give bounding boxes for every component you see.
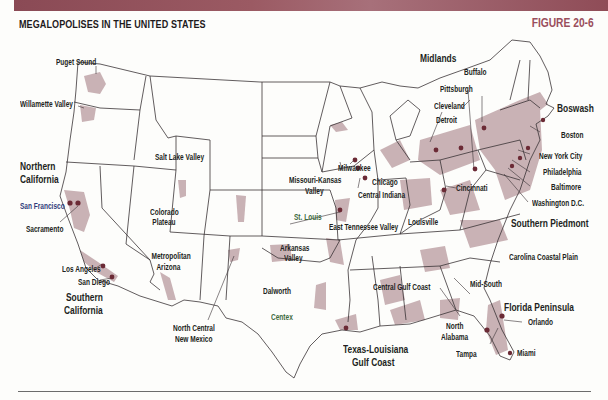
label-louisville: Louisville (408, 218, 438, 228)
label-north-central-nm-2: New Mexico (175, 335, 212, 345)
label-arkansas-valley-2: Valley (284, 254, 303, 264)
region-midlands: Midlands (420, 52, 456, 64)
label-carolina-coastal-plain: Carolina Coastal Plain (509, 253, 578, 263)
label-san-francisco: San Francisco (20, 202, 65, 212)
label-puget-sound: Puget Sound (56, 58, 96, 68)
label-cleveland: Cleveland (434, 102, 465, 112)
region-northern-california-2: California (20, 173, 59, 185)
region-southern-california-1: Southern (66, 291, 103, 303)
label-orlando: Orlando (528, 318, 553, 328)
bottom-rule (18, 391, 591, 392)
label-sacramento: Sacramento (26, 225, 63, 235)
label-san-diego: San Diego (78, 278, 110, 288)
region-southern-california-2: California (64, 304, 103, 316)
label-baltimore: Baltimore (551, 183, 581, 193)
region-southern-piedmont: Southern Piedmont (511, 217, 588, 229)
region-boswash: Boswash (557, 102, 594, 114)
label-milwaukee: Milwaukee (338, 164, 371, 174)
label-chicago: Chicago (372, 178, 398, 188)
label-dalworth: Dalworth (263, 287, 291, 297)
label-new-york-city: New York City (539, 152, 582, 162)
region-tx-la-gulf-2: Gulf Coast (352, 356, 394, 368)
label-los-angeles: Los Angeles (62, 265, 101, 275)
label-pittsburgh: Pittsburgh (440, 85, 473, 95)
label-missouri-kansas-2: Valley (305, 187, 324, 197)
label-north-alabama-2: Alabama (441, 333, 468, 343)
label-willamette-valley: Willamette Valley (20, 100, 73, 110)
label-missouri-kansas-1: Missouri-Kansas (289, 176, 341, 186)
label-detroit: Detroit (436, 116, 457, 126)
region-florida-peninsula: Florida Peninsula (504, 301, 574, 313)
label-salt-lake-valley: Salt Lake Valley (155, 153, 204, 163)
region-tx-la-gulf-1: Texas-Louisiana (343, 343, 408, 355)
label-boston: Boston (561, 131, 583, 141)
label-metropolitan-arizona-1: Metropolitan (152, 252, 191, 262)
label-miami: Miami (517, 349, 536, 359)
state-boundaries (60, 40, 554, 378)
label-philadelphia: Philadelphia (543, 168, 581, 178)
label-tampa: Tampa (456, 350, 477, 360)
label-north-central-nm-1: North Central (173, 324, 215, 334)
label-buffalo: Buffalo (464, 68, 486, 78)
label-cincinnati: Cincinnati (456, 184, 488, 194)
label-st-louis: St. Louis (294, 213, 322, 223)
label-centex: Centex (271, 313, 293, 323)
region-northern-california-1: Northern (20, 160, 55, 172)
label-central-gulf-coast: Central Gulf Coast (373, 283, 430, 293)
label-colorado-plateau-2: Plateau (152, 218, 175, 228)
label-mid-south: Mid-South (470, 280, 502, 290)
label-washington-dc: Washington D.C. (532, 199, 584, 209)
label-metropolitan-arizona-2: Arizona (156, 263, 180, 273)
label-east-tennessee-valley: East Tennessee Valley (329, 223, 398, 233)
us-outline (60, 40, 554, 378)
label-north-alabama-1: North (446, 322, 463, 332)
label-central-indiana: Central Indiana (358, 191, 405, 201)
